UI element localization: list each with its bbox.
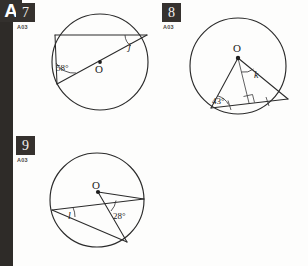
figure-9: O 28° l [0,134,170,266]
diameter-line-7 [57,35,147,84]
angle-arc-l [73,208,75,218]
circle-outline-9 [50,153,144,247]
centre-label-7: O [95,63,103,75]
angle-28: 28° [113,211,126,221]
angle-58: 58° [56,63,69,73]
figure-8: O 43° k [160,0,308,128]
angle-l: l [68,210,71,221]
chord-left-right-9 [52,199,144,210]
radius-right-8 [238,58,288,99]
figure-7: O 58° j [0,0,160,128]
centre-label-9: O [92,179,100,191]
radius-right-9 [98,192,144,199]
centre-label-8: O [233,42,241,54]
right-angle-mark-8 [244,95,255,103]
angle-k: k [254,69,259,80]
worksheet-page: A 7 A03 O 58° j 8 A03 [0,0,308,266]
angle-43: 43° [212,96,225,106]
centre-dot-8 [236,56,240,60]
circle-outline-8 [190,18,286,114]
